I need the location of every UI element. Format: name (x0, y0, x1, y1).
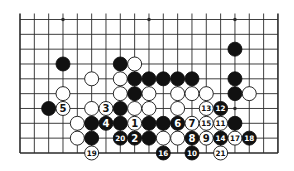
white-stone (142, 87, 156, 101)
move-number-label: 8 (188, 133, 195, 144)
white-stone (70, 131, 84, 145)
move-18: 18 (242, 131, 256, 145)
black-stone (142, 72, 156, 86)
move-3: 3 (99, 101, 113, 115)
black-stone (185, 72, 199, 86)
white-stone (185, 87, 199, 101)
move-number-label: 9 (203, 133, 210, 144)
move-11: 11 (214, 116, 228, 130)
white-stone (171, 131, 185, 145)
white-stone (171, 131, 185, 145)
black-stone (142, 116, 156, 130)
black-stone (42, 101, 56, 115)
black-stone (228, 116, 242, 130)
black-stone (185, 72, 199, 86)
white-stone (85, 101, 99, 115)
black-stone (156, 72, 170, 86)
black-stone (85, 116, 99, 130)
white-stone (199, 87, 213, 101)
white-stone (70, 116, 84, 130)
white-stone (70, 131, 84, 145)
white-stone (142, 101, 156, 115)
black-stone (142, 131, 156, 145)
white-stone (56, 87, 70, 101)
move-number-label: 12 (216, 104, 226, 113)
black-stone (171, 72, 185, 86)
black-stone (228, 87, 242, 101)
black-stone (113, 57, 127, 71)
black-stone (142, 131, 156, 145)
black-stone (113, 57, 127, 71)
move-number-label: 2 (131, 133, 138, 144)
black-stone (142, 72, 156, 86)
move-8: 8 (185, 131, 199, 145)
black-stone (156, 72, 170, 86)
star-point (233, 18, 237, 22)
move-number-label: 16 (158, 149, 168, 158)
move-number-label: 4 (102, 118, 109, 129)
white-stone (185, 87, 199, 101)
white-stone (113, 72, 127, 86)
black-stone (128, 72, 142, 86)
black-stone (142, 116, 156, 130)
move-number-label: 7 (188, 118, 195, 129)
white-stone (85, 72, 99, 86)
move-number-label: 14 (216, 134, 226, 143)
black-stone (228, 42, 242, 56)
black-stone (128, 87, 142, 101)
go-board-diagram: 123456789101112131415161718192021 (0, 0, 294, 171)
white-stone (128, 101, 142, 115)
black-stone (113, 116, 127, 130)
white-stone (113, 87, 127, 101)
move-number-label: 10 (187, 149, 197, 158)
move-12: 12 (214, 101, 228, 115)
white-stone (128, 57, 142, 71)
move-4: 4 (99, 116, 113, 130)
white-stone (70, 116, 84, 130)
move-10: 10 (185, 146, 199, 160)
black-stone (156, 116, 170, 130)
move-number-label: 5 (60, 103, 67, 114)
white-stone (171, 101, 185, 115)
move-number-label: 18 (244, 134, 254, 143)
white-stone (128, 101, 142, 115)
black-stone (128, 72, 142, 86)
move-number-label: 11 (216, 119, 226, 128)
move-14: 14 (214, 131, 228, 145)
black-stone (228, 42, 242, 56)
move-19: 19 (85, 146, 99, 160)
move-number-label: 6 (174, 118, 181, 129)
move-9: 9 (199, 131, 213, 145)
white-stone (85, 101, 99, 115)
move-6: 6 (171, 116, 185, 130)
black-stone (128, 87, 142, 101)
move-number-label: 17 (230, 134, 240, 143)
move-16: 16 (156, 146, 170, 160)
move-13: 13 (199, 101, 213, 115)
white-stone (242, 87, 256, 101)
black-stone (228, 116, 242, 130)
star-point (147, 18, 151, 22)
move-number-label: 15 (201, 119, 211, 128)
black-stone (85, 116, 99, 130)
move-number-label: 13 (201, 104, 211, 113)
white-stone (242, 87, 256, 101)
move-21: 21 (214, 146, 228, 160)
white-stone (142, 101, 156, 115)
black-stone (228, 72, 242, 86)
white-stone (142, 87, 156, 101)
black-stone (171, 72, 185, 86)
white-stone (113, 72, 127, 86)
black-stone (42, 101, 56, 115)
white-stone (156, 131, 170, 145)
black-stone (85, 131, 99, 145)
move-number-label: 3 (102, 103, 109, 114)
black-stone (113, 101, 127, 115)
move-15: 15 (199, 116, 213, 130)
white-stone (113, 87, 127, 101)
black-stone (56, 57, 70, 71)
white-stone (85, 72, 99, 86)
black-stone (56, 57, 70, 71)
move-2: 2 (128, 131, 142, 145)
black-stone (85, 131, 99, 145)
